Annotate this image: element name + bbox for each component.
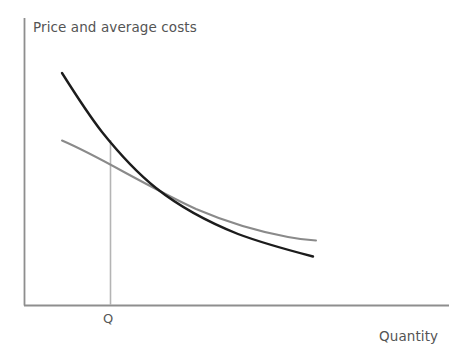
x-axis-tick-label-q: Q [103,310,113,327]
economics-chart [0,0,466,356]
chart-background [0,0,466,356]
y-axis-title: Price and average costs [33,19,197,36]
x-axis-title: Quantity [379,328,438,345]
